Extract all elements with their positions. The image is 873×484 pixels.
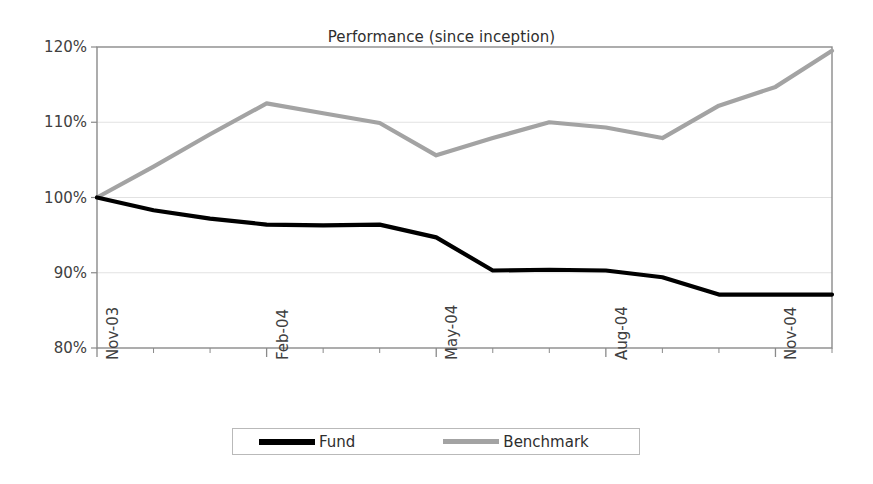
legend-entry-benchmark: Benchmark xyxy=(443,433,588,451)
x-axis-tick-label: Aug-04 xyxy=(613,306,631,360)
x-axis-tick-label: Nov-04 xyxy=(782,307,800,360)
y-axis-tick-label: 120% xyxy=(25,38,87,56)
series-lines xyxy=(97,51,832,295)
legend-entry-fund: Fund xyxy=(259,433,355,451)
legend-label-fund: Fund xyxy=(319,433,355,451)
x-axis-tick-label: Feb-04 xyxy=(274,309,292,360)
plot-area xyxy=(0,0,873,484)
chart-legend: Fund Benchmark xyxy=(232,428,640,455)
x-axis-tick-label: Nov-03 xyxy=(104,307,122,360)
y-axis-tick-label: 110% xyxy=(25,113,87,131)
y-axis-tick-label: 90% xyxy=(25,264,87,282)
legend-swatch-fund xyxy=(259,439,315,445)
legend-swatch-benchmark xyxy=(443,439,499,444)
x-axis-tick-label: May-04 xyxy=(443,305,461,360)
x-axis-ticks xyxy=(97,348,832,357)
y-axis-tick-label: 100% xyxy=(25,189,87,207)
legend-label-benchmark: Benchmark xyxy=(503,433,588,451)
performance-chart: Performance (since inception) 120%110%10… xyxy=(0,0,873,484)
y-axis-tick-label: 80% xyxy=(25,339,87,357)
